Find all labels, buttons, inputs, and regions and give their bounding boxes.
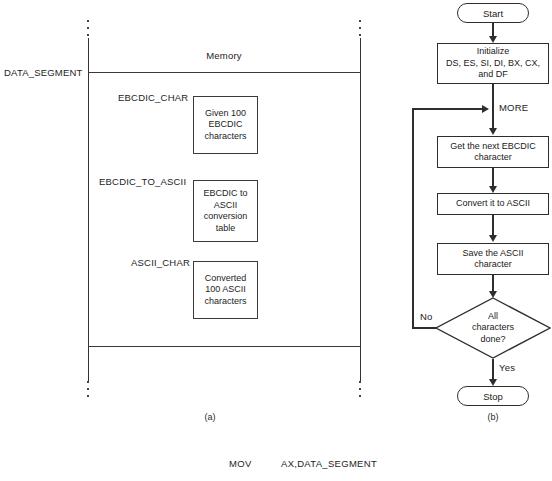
code-mnemonic: MOV	[229, 458, 252, 469]
block-label-ebcdic-char: EBCDIC_CHAR	[118, 92, 188, 103]
arrow-convert-to-save	[489, 235, 497, 242]
flow-step-get-next-character-text: Get the next EBCDIC character	[450, 141, 536, 164]
figure-root: Memory DATA_SEGMENT EBCDIC_CHAR Given 10…	[0, 0, 552, 481]
data-segment-label: DATA_SEGMENT	[4, 67, 83, 78]
code-line-row: MOV AX,DATA_SEGMENT	[0, 458, 552, 474]
flow-branch-label-no: No	[420, 311, 433, 322]
arrow-more-to-get-next	[489, 128, 497, 135]
connector-no-branch-horizontal	[412, 327, 437, 329]
memory-title: Memory	[184, 50, 264, 61]
block-label-ascii-char: ASCII_CHAR	[131, 257, 190, 268]
data-segment-top-boundary	[88, 72, 361, 73]
memory-block-ascii-char: Converted 100 ASCII characters	[193, 261, 258, 319]
arrow-yes-branch-to-stop	[489, 379, 497, 386]
flow-loop-label-more: MORE	[499, 102, 528, 113]
flow-branch-label-yes: Yes	[499, 362, 515, 373]
memory-bottom-right-dots	[359, 381, 361, 397]
memory-block-ebcdic-char: Given 100 EBCDIC characters	[193, 96, 258, 154]
memory-top-left-dots	[87, 20, 89, 36]
memory-left-rail	[88, 38, 89, 381]
panel-b-caption: (b)	[473, 412, 513, 422]
code-operands: AX,DATA_SEGMENT	[281, 458, 377, 469]
flow-decision-all-characters-done: All characters done?	[435, 297, 551, 359]
connector-initialize-to-more	[492, 84, 494, 108]
flow-terminal-start-label: Start	[483, 8, 503, 19]
arrow-get-next-to-convert	[489, 186, 497, 193]
flow-decision-text: All characters done?	[435, 297, 551, 359]
memory-top-right-dots	[359, 20, 361, 36]
panel-b-flowchart: Start Initialize DS, ES, SI, DI, BX, CX,…	[400, 0, 552, 440]
flow-terminal-stop: Stop	[457, 386, 529, 406]
flow-step-initialize: Initialize DS, ES, SI, DI, BX, CX, and D…	[437, 43, 549, 84]
connector-no-branch-vertical	[412, 108, 414, 329]
flow-terminal-start: Start	[457, 3, 529, 23]
arrow-no-branch-to-more	[482, 105, 489, 113]
flow-step-initialize-text: Initialize DS, ES, SI, DI, BX, CX, and D…	[446, 46, 540, 81]
panel-a-memory-map: Memory DATA_SEGMENT EBCDIC_CHAR Given 10…	[0, 0, 400, 440]
memory-block-ebcdic-char-text: Given 100 EBCDIC characters	[204, 108, 246, 143]
memory-block-ebcdic-to-ascii-text: EBCDIC to ASCII conversion table	[203, 188, 247, 234]
flow-step-get-next-character: Get the next EBCDIC character	[437, 136, 549, 168]
flow-terminal-stop-label: Stop	[483, 391, 503, 402]
flow-step-convert-to-ascii: Convert it to ASCII	[437, 193, 549, 215]
memory-block-ascii-char-text: Converted 100 ASCII characters	[204, 273, 246, 308]
flow-step-save-character-text: Save the ASCII character	[462, 248, 523, 271]
flow-step-convert-to-ascii-text: Convert it to ASCII	[456, 198, 530, 210]
flow-step-save-character: Save the ASCII character	[437, 243, 549, 275]
block-label-ebcdic-to-ascii: EBCDIC_TO_ASCII	[99, 176, 186, 187]
memory-right-rail	[360, 38, 361, 381]
connector-no-branch-return	[412, 108, 484, 110]
panel-a-caption: (a)	[190, 412, 230, 422]
memory-block-ebcdic-to-ascii: EBCDIC to ASCII conversion table	[193, 180, 258, 242]
data-segment-bottom-boundary	[88, 346, 361, 347]
arrow-start-to-initialize	[489, 36, 497, 43]
memory-bottom-left-dots	[87, 381, 89, 397]
